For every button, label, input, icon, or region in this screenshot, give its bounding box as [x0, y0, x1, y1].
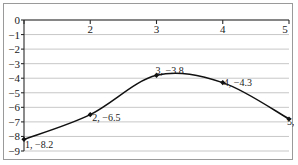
- y-tick-label: −4: [8, 72, 20, 84]
- y-tick-label: −7: [8, 116, 20, 128]
- y-tick-label: −9: [8, 145, 20, 157]
- data-point-label: 2, −6.5: [92, 112, 120, 123]
- y-tick-label: −8: [8, 130, 20, 142]
- y-tick-label: −3: [8, 58, 20, 70]
- x-tick-label: 5: [282, 23, 288, 35]
- plot-area: 0−1−2−3−4−5−6−7−8−9 2345 1, −8.22, −6.53…: [4, 4, 294, 161]
- y-tick-label: −1: [8, 29, 20, 41]
- y-tick-label: −6: [8, 101, 20, 113]
- y-tick-label: 0: [15, 14, 21, 26]
- x-tick-label: 4: [220, 23, 226, 35]
- x-tick-label: 2: [88, 23, 94, 35]
- y-tick-label: −2: [8, 43, 20, 55]
- x-tick-label: 3: [154, 23, 160, 35]
- y-tick-label: −5: [8, 87, 20, 99]
- chart-frame: 0−1−2−3−4−5−6−7−8−9 2345 1, −8.22, −6.53…: [3, 3, 293, 160]
- data-point-label: 3, −3.8: [156, 65, 184, 76]
- x-tick-labels-group: 2345: [88, 23, 289, 35]
- data-point-label: 5, −6.8: [287, 116, 294, 127]
- line-chart-svg: 0−1−2−3−4−5−6−7−8−9 2345 1, −8.22, −6.53…: [4, 4, 294, 161]
- data-point-label: 1, −8.2: [25, 139, 53, 150]
- data-point-label: 4, −4.3: [224, 77, 252, 88]
- y-tick-labels-group: 0−1−2−3−4−5−6−7−8−9: [8, 14, 20, 157]
